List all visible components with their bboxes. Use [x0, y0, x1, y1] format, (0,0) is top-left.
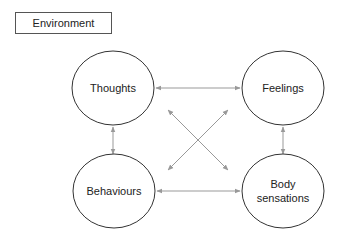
node-body-sensations: Body sensations	[242, 154, 324, 228]
node-body-sensations-label-line1: Body	[270, 178, 296, 190]
node-behaviours-label: Behaviours	[86, 185, 142, 197]
node-feelings: Feelings	[242, 51, 324, 125]
node-thoughts: Thoughts	[72, 51, 154, 125]
node-thoughts-label: Thoughts	[90, 82, 136, 94]
node-behaviours: Behaviours	[73, 154, 155, 228]
node-body-sensations-label-line2: sensations	[257, 192, 310, 204]
diagram-canvas: Thoughts Feelings Behaviours Body sensat…	[0, 0, 338, 239]
node-feelings-label: Feelings	[262, 82, 304, 94]
